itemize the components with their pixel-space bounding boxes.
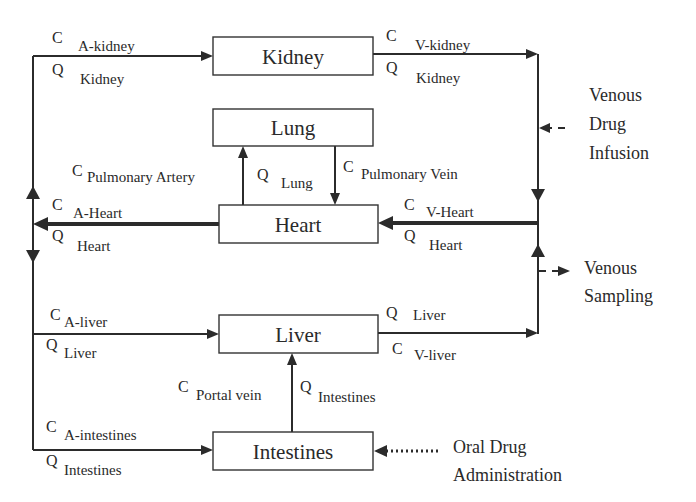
q-kidney-label: Kidney xyxy=(80,71,125,87)
heart-label: Heart xyxy=(275,213,322,237)
q-intestines-label: Intestines xyxy=(318,389,376,405)
svg-text:Administration: Administration xyxy=(453,465,562,485)
v-liver-label: V-liver xyxy=(414,347,456,363)
kidney-label: Kidney xyxy=(262,45,324,69)
liver-compartment: Liver xyxy=(219,315,378,353)
arrowhead-icon xyxy=(201,51,213,61)
oral-drug-administration-label: Oral Drug Administration xyxy=(453,437,562,485)
venous-drug-infusion-label: Venous Drug Infusion xyxy=(589,85,649,163)
a-kidney-label: A-kidney xyxy=(78,38,135,54)
c-symbol: C xyxy=(404,196,415,213)
svg-text:Infusion: Infusion xyxy=(589,143,649,163)
q-symbol: Q xyxy=(386,59,398,76)
c-symbol: C xyxy=(72,162,83,179)
svg-text:Venous: Venous xyxy=(589,85,642,105)
arrow-down-icon xyxy=(531,189,545,202)
svg-text:Sampling: Sampling xyxy=(584,286,653,306)
c-symbol: C xyxy=(52,196,63,213)
c-symbol: C xyxy=(386,27,397,44)
arrowhead-icon xyxy=(287,353,297,365)
svg-text:Drug: Drug xyxy=(589,114,626,134)
q-kidney-label: Kidney xyxy=(416,70,461,86)
q-symbol: Q xyxy=(52,227,64,244)
c-symbol: C xyxy=(46,418,57,435)
q-symbol: Q xyxy=(300,378,312,395)
arrow-up-icon xyxy=(531,244,545,257)
v-heart-label: V-Heart xyxy=(426,204,475,220)
arrowhead-icon xyxy=(33,217,48,231)
q-symbol: Q xyxy=(46,452,58,469)
a-intestines-label: A-intestines xyxy=(64,427,137,443)
a-liver-label: A-liver xyxy=(64,314,107,330)
q-symbol: Q xyxy=(46,336,58,353)
c-symbol: C xyxy=(178,378,189,395)
lung-compartment: Lung xyxy=(213,109,373,146)
intestines-compartment: Intestines xyxy=(213,432,373,470)
arrowhead-icon xyxy=(378,216,393,230)
arrow-down-icon xyxy=(26,250,40,263)
arrowhead-icon xyxy=(207,329,219,339)
arrowhead-icon xyxy=(526,49,538,59)
q-liver-label: Liver xyxy=(64,345,96,361)
arrowhead-icon xyxy=(201,445,213,455)
svg-text:Oral Drug: Oral Drug xyxy=(453,437,526,457)
q-intestines-label: Intestines xyxy=(64,462,122,478)
svg-text:Venous: Venous xyxy=(584,258,637,278)
pbpk-diagram: Kidney Lung Heart Liver Intestines C A-k… xyxy=(0,0,696,502)
arrowhead-icon xyxy=(526,328,538,338)
liver-label: Liver xyxy=(275,323,320,347)
a-heart-label: A-Heart xyxy=(73,205,123,221)
heart-compartment: Heart xyxy=(219,205,378,243)
portal-vein-label: Portal vein xyxy=(196,387,262,403)
c-symbol: C xyxy=(52,29,63,46)
lung-label: Lung xyxy=(271,116,316,140)
v-kidney-label: V-kidney xyxy=(415,37,471,53)
pulmonary-vein-label: Pulmonary Vein xyxy=(361,166,458,182)
sampling-arrow-icon xyxy=(558,266,570,276)
oral-arrow-icon xyxy=(374,445,387,457)
arrowhead-icon xyxy=(238,146,248,158)
intestines-label: Intestines xyxy=(253,440,333,464)
c-symbol: C xyxy=(392,340,403,357)
q-lung-label: Lung xyxy=(281,175,313,191)
c-symbol: C xyxy=(343,158,354,175)
q-symbol: Q xyxy=(52,61,64,78)
c-symbol: C xyxy=(50,306,61,323)
pulmonary-artery-label: Pulmonary Artery xyxy=(87,169,195,185)
q-symbol: Q xyxy=(386,304,398,321)
venous-sampling-label: Venous Sampling xyxy=(584,258,653,306)
q-liver-label: Liver xyxy=(413,307,445,323)
arrow-up-icon xyxy=(26,186,40,199)
q-heart-label: Heart xyxy=(429,237,463,253)
kidney-compartment: Kidney xyxy=(213,37,373,75)
q-symbol: Q xyxy=(257,166,269,183)
q-symbol: Q xyxy=(404,227,416,244)
infusion-arrow-icon xyxy=(539,123,550,133)
q-heart-label: Heart xyxy=(77,238,111,254)
arrowhead-icon xyxy=(330,193,340,205)
